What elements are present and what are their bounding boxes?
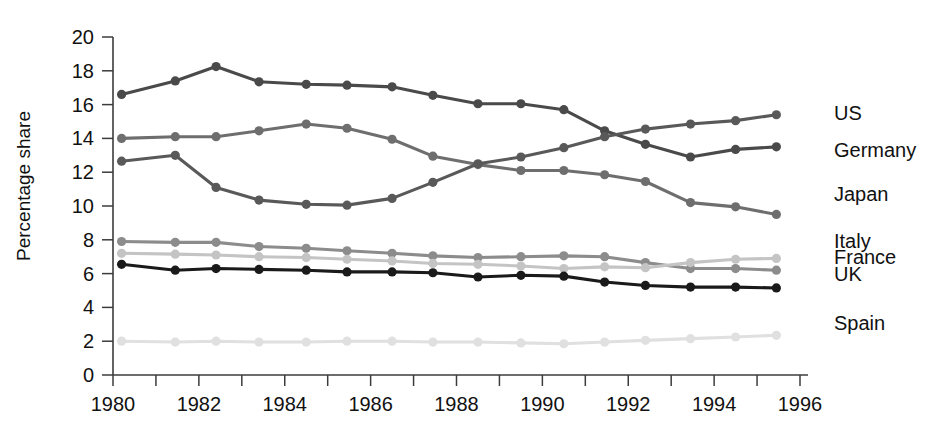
data-point-japan <box>772 110 781 119</box>
x-tick-label: 1980 <box>91 393 136 415</box>
series-line-us <box>122 67 777 157</box>
y-tick-label: 12 <box>72 161 94 183</box>
data-point-us <box>254 77 263 86</box>
data-point-uk <box>302 266 311 275</box>
data-point-japan <box>473 159 482 168</box>
data-point-uk <box>772 283 781 292</box>
data-point-spain <box>171 337 180 346</box>
data-point-spain <box>473 337 482 346</box>
chart-container: 0246810121416182019801982198419861988199… <box>0 0 939 444</box>
data-point-france <box>473 260 482 269</box>
data-point-uk <box>342 267 351 276</box>
data-point-italy <box>600 252 609 261</box>
y-tick-label: 6 <box>83 263 94 285</box>
data-point-us <box>473 99 482 108</box>
data-point-uk <box>731 283 740 292</box>
data-point-uk <box>211 264 220 273</box>
data-point-us <box>387 82 396 91</box>
data-point-france <box>686 258 695 267</box>
data-point-us <box>731 145 740 154</box>
data-point-italy <box>117 237 126 246</box>
data-point-us <box>428 91 437 100</box>
data-point-spain <box>516 338 525 347</box>
data-point-us <box>772 142 781 151</box>
data-point-france <box>516 261 525 270</box>
data-point-italy <box>772 266 781 275</box>
data-point-italy <box>516 252 525 261</box>
y-tick-label: 2 <box>83 330 94 352</box>
data-point-japan <box>516 152 525 161</box>
legend-label-japan: Japan <box>834 183 889 205</box>
x-tick-label: 1982 <box>177 393 222 415</box>
data-point-uk <box>473 272 482 281</box>
data-point-uk <box>254 265 263 274</box>
data-point-germany <box>302 119 311 128</box>
data-point-france <box>254 252 263 261</box>
data-point-france <box>387 256 396 265</box>
series-layer <box>117 62 781 348</box>
line-chart-svg: 0246810121416182019801982198419861988199… <box>0 0 939 444</box>
data-point-japan <box>731 116 740 125</box>
data-point-france <box>641 263 650 272</box>
data-point-japan <box>600 132 609 141</box>
data-point-germany <box>731 202 740 211</box>
data-point-germany <box>686 198 695 207</box>
data-point-germany <box>641 177 650 186</box>
data-point-germany <box>772 210 781 219</box>
data-point-italy <box>731 264 740 273</box>
y-tick-label: 18 <box>72 60 94 82</box>
data-point-france <box>772 254 781 263</box>
data-point-france <box>302 253 311 262</box>
data-point-spain <box>117 337 126 346</box>
data-point-uk <box>559 272 568 281</box>
x-tick-label: 1986 <box>348 393 393 415</box>
data-point-spain <box>302 337 311 346</box>
data-point-spain <box>254 337 263 346</box>
data-point-us <box>686 152 695 161</box>
data-point-uk <box>600 277 609 286</box>
y-tick-label: 16 <box>72 94 94 116</box>
data-point-germany <box>516 166 525 175</box>
data-point-italy <box>211 238 220 247</box>
data-point-uk <box>686 283 695 292</box>
data-point-spain <box>387 337 396 346</box>
data-point-uk <box>387 267 396 276</box>
data-point-us <box>641 140 650 149</box>
x-tick-label: 1988 <box>434 393 479 415</box>
data-point-japan <box>428 178 437 187</box>
data-point-japan <box>686 119 695 128</box>
data-point-us <box>171 76 180 85</box>
data-point-spain <box>686 334 695 343</box>
data-point-us <box>117 90 126 99</box>
data-point-uk <box>117 260 126 269</box>
data-point-us <box>516 99 525 108</box>
y-tick-label: 4 <box>83 296 94 318</box>
axes-layer: 0246810121416182019801982198419861988199… <box>13 26 822 415</box>
data-point-uk <box>641 281 650 290</box>
x-tick-label: 1994 <box>692 393 737 415</box>
data-point-spain <box>211 337 220 346</box>
data-point-japan <box>387 194 396 203</box>
legend-label-us: US <box>834 102 862 124</box>
y-tick-label: 14 <box>72 127 94 149</box>
data-point-france <box>171 250 180 259</box>
data-point-us <box>342 81 351 90</box>
x-tick-label: 1990 <box>520 393 565 415</box>
x-tick-label: 1992 <box>606 393 651 415</box>
data-point-japan <box>641 125 650 134</box>
data-point-spain <box>428 337 437 346</box>
data-point-germany <box>254 126 263 135</box>
data-point-france <box>342 255 351 264</box>
data-point-spain <box>641 336 650 345</box>
legend-layer: USGermanyJapanItalyFranceUKSpain <box>834 102 916 334</box>
y-axis-title: Percentage share <box>13 111 34 261</box>
data-point-spain <box>559 339 568 348</box>
data-point-germany <box>387 135 396 144</box>
data-point-germany <box>559 166 568 175</box>
data-point-france <box>600 262 609 271</box>
y-tick-label: 8 <box>83 229 94 251</box>
legend-label-uk: UK <box>834 263 862 285</box>
data-point-france <box>211 250 220 259</box>
data-point-spain <box>772 331 781 340</box>
data-point-japan <box>117 157 126 166</box>
